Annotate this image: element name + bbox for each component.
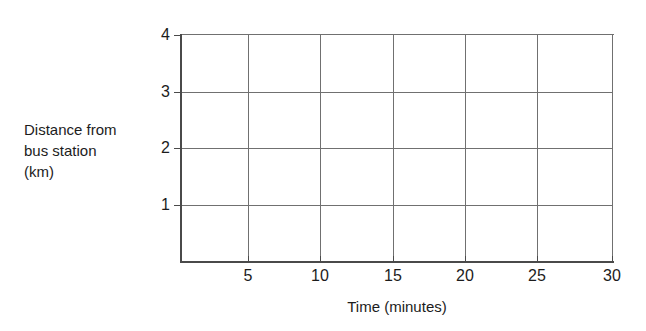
plot-area[interactable] bbox=[180, 35, 613, 262]
x-tick-label-10: 10 bbox=[300, 268, 340, 284]
x-tick-25 bbox=[537, 256, 538, 263]
x-tick-20 bbox=[465, 256, 466, 263]
y-tick-label-3: 3 bbox=[140, 84, 170, 100]
y-tick-1 bbox=[174, 205, 181, 206]
gridline-x-20 bbox=[465, 35, 466, 262]
gridline-x-15 bbox=[393, 35, 394, 262]
y-tick-3 bbox=[174, 92, 181, 93]
y-tick-2 bbox=[174, 148, 181, 149]
x-axis-label: Time (minutes) bbox=[180, 297, 614, 317]
plot-border-right bbox=[612, 34, 613, 263]
gridline-x-5 bbox=[248, 35, 249, 262]
gridline-x-25 bbox=[537, 35, 538, 262]
y-tick-4 bbox=[174, 35, 181, 36]
x-tick-label-20: 20 bbox=[445, 268, 485, 284]
y-tick-label-4: 4 bbox=[140, 27, 170, 43]
y-axis-label: Distance from bus station (km) bbox=[24, 119, 174, 182]
x-tick-label-15: 15 bbox=[373, 268, 413, 284]
gridline-y-1 bbox=[180, 205, 613, 206]
x-tick-label-30: 30 bbox=[592, 268, 632, 284]
x-tick-5 bbox=[248, 256, 249, 263]
gridline-y-2 bbox=[180, 148, 613, 149]
x-axis-line bbox=[180, 261, 614, 263]
x-tick-label-25: 25 bbox=[517, 268, 557, 284]
x-tick-30 bbox=[612, 256, 613, 263]
gridline-x-10 bbox=[320, 35, 321, 262]
gridline-y-3 bbox=[180, 92, 613, 93]
y-tick-label-1: 1 bbox=[140, 197, 170, 213]
x-tick-15 bbox=[393, 256, 394, 263]
x-tick-label-5: 5 bbox=[228, 268, 268, 284]
x-tick-10 bbox=[320, 256, 321, 263]
chart-figure: 4 3 2 1 5 10 15 20 25 30 Distance from b… bbox=[0, 0, 646, 331]
plot-border-top bbox=[180, 34, 614, 35]
